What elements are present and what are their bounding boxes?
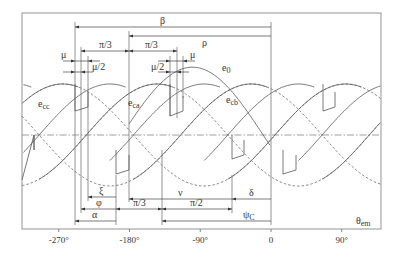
commutation-notch: [170, 84, 183, 116]
dimension-label: ρ: [202, 37, 207, 48]
dimension-annotations: βρπ/3π/3μμμ/2μ/2ξνδφπ/3π/2αψC: [61, 15, 271, 223]
arrowhead-icon: [71, 70, 75, 73]
arrowhead-icon: [183, 59, 187, 62]
commutation-notch: [22, 135, 34, 180]
curve-label-eca: eca: [128, 97, 140, 110]
curve-label-ecc: ecc: [38, 98, 50, 111]
dimension-label: π/3: [99, 39, 112, 50]
dimension-label: μ/2: [151, 61, 164, 72]
arrowhead-icon: [166, 70, 170, 73]
dimension-label: π/3: [133, 197, 146, 208]
arrowhead-icon: [162, 219, 166, 222]
commutation-notch: [232, 135, 244, 159]
curve-labels: eccecae0ecb: [38, 62, 238, 111]
dimension-label: ξ: [99, 185, 104, 197]
arrowhead-icon: [81, 70, 85, 73]
arrowhead-icon: [75, 25, 79, 28]
arrowhead-icon: [232, 197, 236, 200]
dimension-label: π/2: [190, 197, 203, 208]
commutation-notch: [323, 84, 335, 111]
dimension-label: φ: [96, 197, 102, 208]
axis-label: θem: [356, 215, 371, 228]
e-ca-solid-curve: [23, 85, 31, 87]
e-cb-solid-curve: [23, 84, 125, 152]
tick-label: 0: [269, 235, 274, 245]
dimension-label: μ: [190, 49, 195, 60]
arrowhead-icon: [166, 59, 170, 62]
dimension-label: π/3: [145, 39, 158, 50]
dimension-2: π/3: [81, 39, 129, 51]
arrowhead-icon: [228, 207, 232, 210]
tick-label: -90°: [192, 235, 208, 245]
tick-label: -180°: [119, 235, 139, 245]
dimension-0: β: [75, 15, 271, 27]
dimension-15: ψC: [162, 209, 271, 222]
e-ca-solid-curve: [322, 123, 380, 180]
arrowhead-icon: [129, 49, 133, 52]
dimension-label: ν: [178, 187, 183, 198]
waveform-diagram: βρπ/3π/3μμμ/2μ/2ξνδφπ/3π/2αψC eccecae0ec…: [0, 0, 400, 254]
dimension-label: β: [160, 15, 165, 26]
curve-label-e0: e0: [222, 62, 230, 75]
tick-label: 90°: [335, 235, 348, 245]
arrowhead-icon: [125, 49, 129, 52]
dimension-label: δ: [249, 187, 254, 198]
dimension-label: α: [92, 209, 98, 220]
dimension-label: ψC: [243, 209, 255, 222]
arrowhead-icon: [173, 49, 177, 52]
phase-voltage-curves: [22, 67, 381, 186]
dimension-6: μ/2: [63, 61, 105, 72]
dimension-11: φ: [81, 197, 116, 209]
tick-label: -270°: [49, 235, 69, 245]
arrowhead-icon: [129, 34, 133, 37]
e-cc-solid-curve: [23, 84, 78, 102]
curve-label-ecb: ecb: [226, 94, 238, 107]
dimension-10: δ: [232, 187, 271, 199]
output-voltage-waveform: [22, 84, 335, 180]
e0-curve: [129, 67, 270, 145]
dimension-8: ξ: [88, 185, 116, 197]
x-axis: -270°-180°-90°090°: [49, 229, 349, 245]
arrowhead-icon: [71, 59, 75, 62]
arrowhead-icon: [162, 207, 166, 210]
arrowhead-icon: [116, 207, 120, 210]
commutation-notch: [283, 150, 296, 174]
dimension-3: π/3: [129, 39, 177, 51]
commutation-notch: [116, 150, 129, 174]
arrowhead-icon: [81, 49, 85, 52]
arrowhead-icon: [75, 219, 79, 222]
e-cb-solid-curve: [299, 86, 381, 161]
dimension-label: μ/2: [92, 61, 105, 72]
arrowhead-icon: [81, 207, 85, 210]
dimension-label: μ: [61, 49, 66, 60]
arrowhead-icon: [88, 195, 92, 198]
arrowhead-icon: [158, 207, 162, 210]
